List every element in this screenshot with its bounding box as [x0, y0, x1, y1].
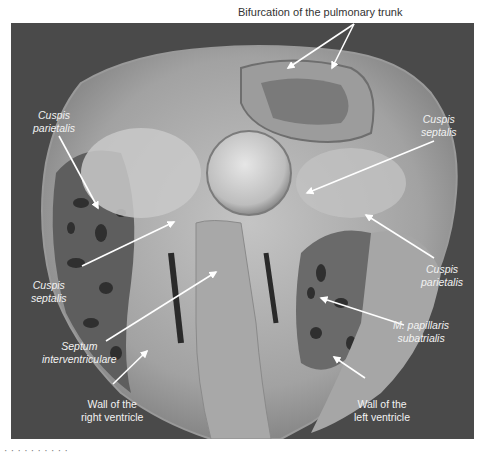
label-line: septalis — [421, 126, 457, 139]
label-line: Cuspis — [31, 279, 67, 292]
label-line: right ventricle — [81, 411, 143, 424]
label-line: Wall of the — [81, 398, 143, 411]
label-line: M. papillaris — [393, 319, 449, 332]
label-wall-left-ventricle: Wall of the left ventricle — [354, 398, 410, 424]
heart-illustration — [11, 23, 474, 439]
label-line: Wall of the — [354, 398, 410, 411]
label-line: parietalis — [33, 122, 75, 135]
label-line: parietalis — [421, 276, 463, 289]
label-cuspis-parietalis-left: Cuspis parietalis — [33, 109, 75, 135]
label-cuspis-septalis-left: Cuspis septalis — [31, 279, 67, 305]
label-line: septalis — [31, 292, 67, 305]
label-line: left ventricle — [354, 411, 410, 424]
label-line: Cuspis — [421, 263, 463, 276]
heart-specimen-photo: Cuspis parietalis Cuspis septalis Cuspis… — [11, 23, 474, 439]
label-line: Septum — [42, 340, 117, 353]
label-m-papillaris-subatrialis: M. papillaris subatrialis — [393, 319, 449, 345]
label-line: subatrialis — [393, 332, 449, 345]
label-cuspis-parietalis-right: Cuspis parietalis — [421, 263, 463, 289]
label-line: Cuspis — [33, 109, 75, 122]
label-bifurcation-pulmonary-trunk: Bifurcation of the pulmonary trunk — [238, 6, 402, 18]
label-line: Cuspis — [421, 113, 457, 126]
label-wall-right-ventricle: Wall of the right ventricle — [81, 398, 143, 424]
aortic-root — [207, 131, 291, 215]
label-line: interventriculare — [42, 353, 117, 366]
label-septum-interventriculare: Septum interventriculare — [42, 340, 117, 366]
label-cuspis-septalis-right: Cuspis septalis — [421, 113, 457, 139]
figure-caption-cutoff: · · · · · · · · · · — [4, 445, 68, 456]
